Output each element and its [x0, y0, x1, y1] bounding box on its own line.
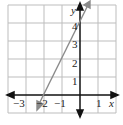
graph: −3 −2 −1 1 x 1 2 3 4 y	[0, 0, 123, 125]
ytick-3: 3	[72, 38, 78, 50]
arrow-up-icon	[77, 3, 83, 10]
xtick-m3: −3	[13, 97, 25, 109]
x-axis-label: x	[108, 97, 114, 109]
arrow-down-icon	[77, 110, 83, 117]
ytick-2: 2	[72, 57, 78, 69]
y-axis-label: y	[70, 4, 76, 16]
line-y-2x-plus-4	[37, 1, 90, 110]
line-arrow-up-icon	[84, 1, 90, 8]
ytick-1: 1	[72, 75, 78, 87]
xtick-m2: −2	[36, 97, 48, 109]
xtick-m1: −1	[54, 97, 66, 109]
xtick-1: 1	[96, 97, 102, 109]
ytick-4: 4	[72, 20, 78, 32]
